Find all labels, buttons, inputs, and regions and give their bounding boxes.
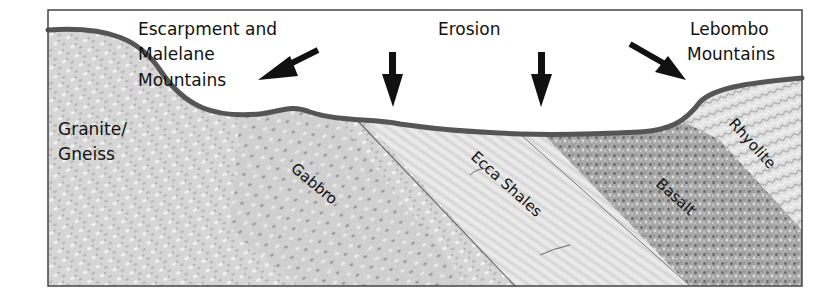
label-lebombo-line1: Lebombo bbox=[690, 19, 769, 39]
geology-cross-section: Escarpment and Malelane Mountains Erosio… bbox=[0, 0, 840, 307]
label-lebombo-line2: Mountains bbox=[687, 44, 775, 64]
label-escarpment-line2: Malelane bbox=[138, 44, 215, 64]
label-erosion: Erosion bbox=[438, 19, 501, 39]
label-escarpment-line1: Escarpment and bbox=[138, 19, 277, 39]
label-gneiss: Gneiss bbox=[58, 144, 115, 164]
label-escarpment-line3: Mountains bbox=[138, 70, 226, 90]
label-granite: Granite/ bbox=[58, 119, 127, 139]
